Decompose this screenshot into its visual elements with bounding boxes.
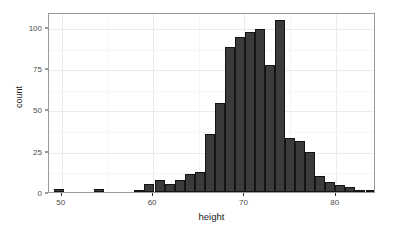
x-tick-label: 60 — [148, 198, 157, 207]
x-axis-ticks: 50607080 — [0, 0, 398, 235]
x-axis-title: height — [48, 211, 375, 222]
x-tick-mark — [243, 193, 244, 196]
x-tick-label: 50 — [56, 198, 65, 207]
x-tick-mark — [61, 193, 62, 196]
x-tick-mark — [335, 193, 336, 196]
x-tick-label: 70 — [239, 198, 248, 207]
histogram-chart: count 0255075100 50607080 height — [0, 0, 398, 235]
x-tick-mark — [152, 193, 153, 196]
x-tick-label: 80 — [330, 198, 339, 207]
